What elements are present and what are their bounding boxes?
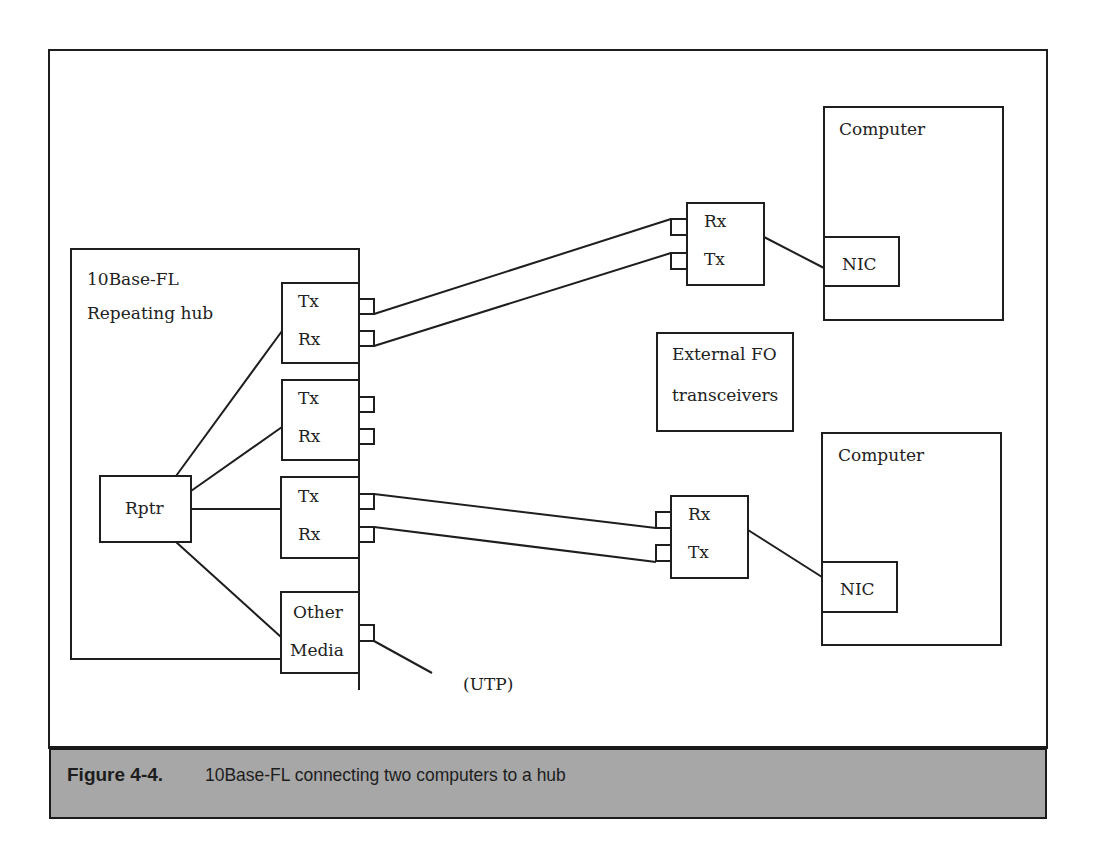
external-fo-line2: transceivers xyxy=(672,387,778,404)
port-icon xyxy=(359,331,374,346)
nic-bottom-label: NIC xyxy=(840,581,875,598)
computer-top-label: Computer xyxy=(839,121,925,138)
module-3-rx: Rx xyxy=(298,526,320,543)
port-icon xyxy=(359,299,374,314)
port-icon xyxy=(656,545,671,561)
figure-number: Figure 4-4. xyxy=(67,764,163,786)
module-2-tx: Tx xyxy=(298,390,319,407)
hub-title-line2: Repeating hub xyxy=(87,305,213,322)
module-other-line2: Media xyxy=(290,642,344,659)
external-fo-line1: External FO xyxy=(672,346,777,363)
port-icon xyxy=(359,397,374,412)
utp-label: (UTP) xyxy=(463,676,513,693)
port-icon xyxy=(656,512,671,528)
hub-title-line1: 10Base-FL xyxy=(87,271,179,288)
nic-top-label: NIC xyxy=(842,256,877,273)
module-1-tx: Tx xyxy=(298,293,319,310)
figure-caption-bar: Figure 4-4. 10Base-FL connecting two com… xyxy=(49,746,1047,819)
port-icon xyxy=(671,219,687,235)
module-3-tx: Tx xyxy=(298,488,319,505)
transceiver-bottom-rx: Rx xyxy=(688,506,710,523)
module-other-line1: Other xyxy=(293,604,343,621)
diagram-canvas xyxy=(0,0,1099,862)
module-1-rx: Rx xyxy=(298,331,320,348)
repeater-label: Rptr xyxy=(125,500,164,517)
transceiver-top-rx: Rx xyxy=(704,213,726,230)
transceiver-bottom-tx: Tx xyxy=(688,544,709,561)
port-icon xyxy=(671,253,687,269)
port-icon xyxy=(359,625,374,641)
figure-caption: 10Base-FL connecting two computers to a … xyxy=(205,764,566,786)
transceiver-top-tx: Tx xyxy=(704,251,725,268)
module-2-rx: Rx xyxy=(298,428,320,445)
figure-frame xyxy=(49,50,1047,748)
port-icon xyxy=(359,429,374,444)
computer-bottom-label: Computer xyxy=(838,447,924,464)
port-icon xyxy=(359,494,374,509)
hub-module-2-box xyxy=(282,380,359,460)
hub-module-3-box xyxy=(281,477,359,558)
port-icon xyxy=(359,527,374,542)
hub-module-1-box xyxy=(282,283,359,363)
